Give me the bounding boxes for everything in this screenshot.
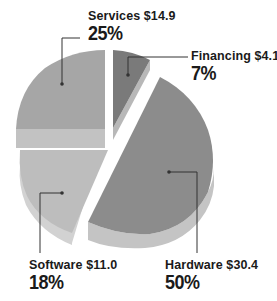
services-pct: 25%: [88, 23, 167, 43]
software-label: Software $11.0 18%: [29, 258, 117, 292]
financing-name: Financing $4.1: [191, 49, 277, 63]
services-name: Services $14.9: [88, 9, 176, 23]
hardware-pct: 50%: [165, 272, 249, 292]
hardware-name: Hardware $30.4: [165, 258, 258, 272]
financing-pct: 7%: [191, 63, 270, 83]
hardware-label: Hardware $30.4 50%: [165, 258, 258, 292]
services-slice: [16, 50, 105, 129]
pie-chart: [0, 0, 277, 301]
software-name: Software $11.0: [29, 258, 117, 272]
services-label: Services $14.9 25%: [88, 9, 176, 43]
hardware-slice: [88, 77, 213, 234]
services-slice-side: [16, 129, 105, 148]
software-pct: 18%: [29, 272, 108, 292]
financing-label: Financing $4.1 7%: [191, 49, 277, 83]
